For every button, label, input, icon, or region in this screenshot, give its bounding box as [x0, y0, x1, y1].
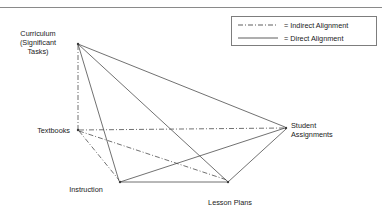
edge-curriculum-lesson-plans [78, 44, 227, 181]
edge-instruction-student-assignments [120, 128, 285, 182]
node-label-curriculum: Curriculum (Significant Tasks) [6, 29, 70, 57]
legend-item-indirect: = Indirect Alignment [238, 19, 348, 31]
legend-label-indirect: = Indirect Alignment [284, 21, 348, 30]
node-label-instruction: Instruction [56, 185, 116, 194]
node-label-lesson-plans: Lesson Plans [199, 198, 261, 207]
node-vertex-curriculum [77, 43, 79, 45]
node-vertex-student-assignments [285, 127, 287, 129]
edge-textbooks-student-assignments [79, 128, 284, 130]
legend-label-direct: = Direct Alignment [284, 34, 343, 43]
edge-curriculum-student-assignments [78, 44, 285, 127]
node-vertex-lesson-plans [227, 181, 229, 183]
diagram-figure: Curriculum (Significant Tasks) Textbooks… [0, 0, 382, 220]
legend-item-direct: = Direct Alignment [238, 32, 343, 44]
node-vertex-instruction [119, 181, 121, 183]
node-label-textbooks: Textbooks [10, 126, 70, 135]
indirect-line-swatch-icon [238, 21, 278, 29]
node-vertex-textbooks [77, 129, 79, 131]
edge-textbooks-instruction [79, 131, 119, 180]
direct-line-swatch-icon [238, 34, 278, 42]
edge-textbooks-lesson-plans [79, 131, 227, 180]
legend: = Indirect Alignment = Direct Alignment [231, 16, 377, 46]
edge-curriculum-instruction [78, 44, 119, 181]
node-label-student-assignments: Student Assignments [291, 121, 363, 139]
